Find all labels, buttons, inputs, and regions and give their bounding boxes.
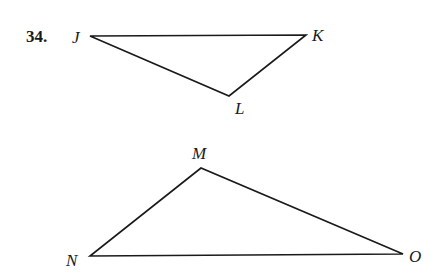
diagram-canvas: 34. J K L M N O xyxy=(0,0,440,280)
vertex-label-n: N xyxy=(66,252,77,269)
problem-number: 34. xyxy=(26,27,47,47)
vertex-label-j: J xyxy=(72,29,80,46)
vertex-label-m: M xyxy=(192,145,206,162)
vertex-label-o: O xyxy=(409,248,421,265)
vertex-label-k: K xyxy=(312,27,323,44)
triangle-jkl xyxy=(90,35,306,96)
triangle-mno xyxy=(90,168,403,256)
vertex-label-l: L xyxy=(235,100,244,117)
triangles-figure xyxy=(0,0,440,280)
